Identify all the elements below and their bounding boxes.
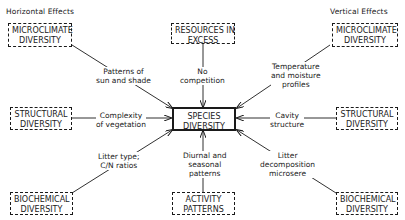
box-line: BIOCHEMICAL: [340, 195, 394, 205]
biochemical-diversity-vertical-box: BIOCHEMICAL DIVERSITY: [336, 192, 398, 215]
label-line: decomposition: [260, 160, 315, 169]
label-line: microsere: [260, 169, 315, 178]
label-line: competition: [180, 76, 225, 85]
structural-diversity-horizontal-box: STRUCTURAL DIVERSITY: [10, 107, 72, 130]
complexity-vegetation-label: Complexity of vegetation: [96, 111, 146, 129]
label-line: sun and shade: [96, 76, 151, 85]
litter-decomposition-label: Litter decomposition microsere: [260, 151, 315, 178]
biochemical-diversity-horizontal-box: BIOCHEMICAL DIVERSITY: [10, 192, 73, 215]
horizontal-effects-heading: Horizontal Effects: [6, 7, 74, 16]
label-line: and moisture: [271, 71, 321, 80]
box-line: BIOCHEMICAL: [14, 195, 69, 205]
sun-shade-label: Patterns of sun and shade: [96, 67, 151, 85]
species-diversity-box: SPECIES DIVERSITY: [172, 107, 236, 131]
vertical-effects-heading: Vertical Effects: [330, 7, 388, 16]
box-line: DIVERSITY: [14, 205, 69, 215]
no-competition-label: No competition: [180, 67, 225, 85]
box-line: DIVERSITY: [340, 120, 394, 130]
label-line: Complexity: [96, 111, 146, 120]
box-line: EXCESS: [175, 36, 231, 46]
label-line: Litter type;: [98, 152, 140, 161]
box-line: DIVERSITY: [340, 205, 394, 215]
label-line: of vegetation: [96, 120, 146, 129]
microclimate-diversity-vertical-box: MICROCLIMATE DIVERSITY: [332, 23, 398, 47]
box-line: STRUCTURAL: [14, 110, 68, 120]
box-line: MICROCLIMATE: [336, 26, 394, 36]
cavity-structure-label: Cavity structure: [270, 111, 304, 129]
box-line: ACTIVITY: [176, 195, 231, 205]
temperature-moisture-label: Temperature and moisture profiles: [271, 62, 321, 89]
resources-in-excess-box: RESOURCES IN EXCESS: [171, 23, 235, 44]
box-line: RESOURCES IN: [175, 26, 231, 36]
label-line: Patterns of: [96, 67, 151, 76]
label-line: Litter: [260, 151, 315, 160]
label-line: Cavity: [270, 111, 304, 120]
label-line: No: [180, 67, 225, 76]
box-line: STRUCTURAL: [340, 110, 394, 120]
box-line: PATTERNS: [176, 205, 231, 215]
label-line: Diurnal and: [183, 151, 227, 160]
label-line: patterns: [183, 169, 227, 178]
center-line: DIVERSITY: [176, 122, 232, 132]
label-line: profiles: [271, 80, 321, 89]
label-line: C/N ratios: [98, 161, 140, 170]
box-line: DIVERSITY: [14, 120, 68, 130]
center-line: SPECIES: [176, 112, 232, 122]
label-line: seasonal: [183, 160, 227, 169]
diurnal-seasonal-label: Diurnal and seasonal patterns: [183, 151, 227, 178]
label-line: structure: [270, 120, 304, 129]
litter-type-label: Litter type; C/N ratios: [98, 152, 140, 170]
box-line: MICROCLIMATE: [12, 26, 68, 36]
box-line: DIVERSITY: [12, 36, 68, 46]
structural-diversity-vertical-box: STRUCTURAL DIVERSITY: [336, 107, 398, 130]
activity-patterns-box: ACTIVITY PATTERNS: [172, 192, 235, 215]
label-line: Temperature: [271, 62, 321, 71]
box-line: DIVERSITY: [336, 36, 394, 46]
microclimate-diversity-horizontal-box: MICROCLIMATE DIVERSITY: [8, 23, 72, 47]
